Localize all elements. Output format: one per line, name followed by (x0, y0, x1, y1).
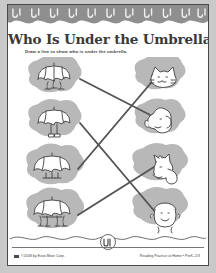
header-band-fill (8, 5, 208, 29)
matching-activity-area (8, 57, 209, 242)
worksheet-page: Who Is Under the Umbrella? Draw a line t… (7, 4, 209, 266)
footer-copyright: ©2008 by Evan-Moor Corp. (14, 254, 65, 258)
activity-graphic (8, 57, 209, 242)
page-title: Who Is Under the Umbrella? (8, 31, 208, 47)
publisher-mark-icon (14, 255, 19, 258)
umbrella-circle-logo-icon (98, 232, 118, 252)
header-decoration-band (8, 5, 208, 29)
copyright-text: ©2008 by Evan-Moor Corp. (21, 254, 65, 258)
child-head-icon (150, 203, 180, 233)
footer-series-title: Reading Practice at Home • PreK–2/3 (140, 254, 200, 258)
footer-logo (98, 232, 118, 252)
footer-divider-line (12, 247, 204, 248)
instruction-text: Draw a line to show who is under the umb… (25, 49, 127, 54)
header-band-graphic (8, 5, 208, 29)
